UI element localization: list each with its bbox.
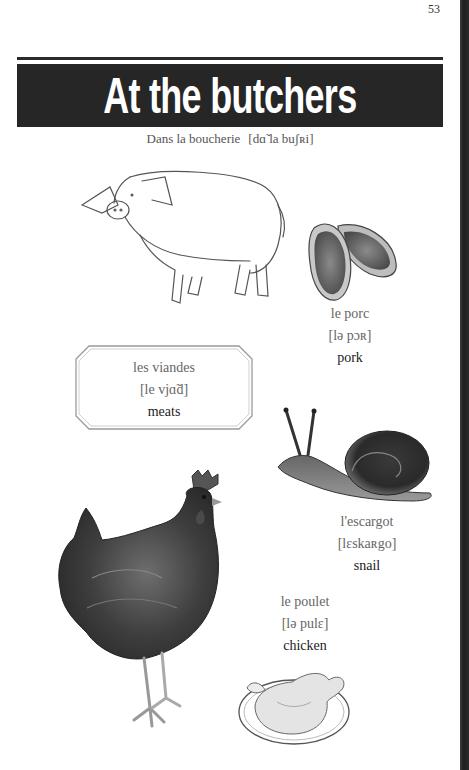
english-translation: chicken: [250, 635, 360, 657]
french-term: l'escargot: [312, 511, 422, 533]
vocab-pork: le porc [lə pɔʀ] pork: [295, 303, 405, 369]
page-gutter: [460, 0, 469, 770]
english-translation: snail: [312, 555, 422, 577]
pork-chops-illustration: [308, 218, 400, 303]
page-title: At the butchers: [103, 71, 356, 121]
pig-illustration: [80, 165, 290, 310]
vocab-meats: les viandes [le vjɑ̃d] meats: [75, 357, 253, 423]
ipa-pronunciation: [lə pulɛ]: [250, 613, 360, 635]
vocab-snail: l'escargot [lɛskaʀgo] snail: [312, 511, 422, 577]
english-translation: meats: [75, 401, 253, 423]
french-term: le poulet: [250, 591, 360, 613]
ipa-pronunciation: [lɛskaʀgo]: [312, 533, 422, 555]
english-translation: pork: [295, 347, 405, 369]
top-rule: [17, 57, 443, 60]
subtitle-french: Dans la boucherie: [147, 131, 241, 146]
page-number: 53: [428, 2, 440, 17]
title-bar: At the butchers: [17, 64, 443, 127]
french-term: le porc: [295, 303, 405, 325]
vocab-meats-box: les viandes [le vjɑ̃d] meats: [75, 345, 253, 430]
roast-chicken-illustration: [237, 662, 352, 747]
ipa-pronunciation: [le vjɑ̃d]: [75, 379, 253, 401]
subtitle-ipa: [dɑ̃ la buʃʀi]: [248, 131, 313, 146]
snail-illustration: [272, 405, 437, 510]
ipa-pronunciation: [lə pɔʀ]: [295, 325, 405, 347]
hen-illustration: [52, 468, 227, 748]
french-term: les viandes: [75, 357, 253, 379]
vocab-chicken: le poulet [lə pulɛ] chicken: [250, 591, 360, 657]
subtitle: Dans la boucherie[dɑ̃ la buʃʀi]: [0, 131, 460, 147]
